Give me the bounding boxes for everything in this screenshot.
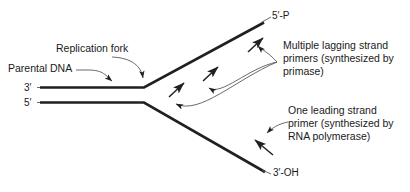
parental-dna-leader — [76, 70, 112, 81]
label-five-prime-phosphate: 5′-P — [272, 9, 289, 22]
left-callout-leaders — [76, 57, 143, 81]
lagging-primer-arrow-1 — [169, 83, 184, 97]
replication-fork-leader — [112, 57, 143, 78]
figure-canvas — [0, 0, 410, 192]
annotation-lagging-line-1: Multiple lagging strand — [283, 39, 394, 52]
lagging-leader-curves — [176, 46, 277, 106]
annotation-leading-line-1: One leading strand — [288, 104, 394, 117]
annotation-leading-line-2: primer (synthesized by — [288, 117, 394, 130]
strand-end-ticks — [37, 88, 40, 103]
lagging-leader-curve-1 — [176, 62, 277, 106]
lagging-primer-arrow-2 — [203, 67, 218, 81]
leading-strand-primer-group — [255, 122, 288, 155]
annotation-lagging-strand-primers: Multiple lagging strand primers (synthes… — [283, 39, 394, 78]
five-prime-p-tick — [262, 17, 271, 22]
annotation-lagging-line-2: primers (synthesized by — [283, 52, 394, 65]
annotation-leading-strand-primer: One leading strand primer (synthesized b… — [288, 104, 394, 143]
annotation-lagging-line-3: primase) — [283, 65, 394, 78]
leading-leader-curve — [267, 122, 288, 133]
label-three-prime: 3′ — [24, 81, 31, 94]
label-five-prime: 5′ — [24, 96, 31, 109]
leading-primer-arrow — [255, 140, 273, 155]
label-parental-dna: Parental DNA — [8, 62, 72, 75]
label-three-prime-hydroxyl: 3′-OH — [273, 166, 299, 179]
replication-fork-figure: Replication fork Parental DNA 3′ 5′ 5′-P… — [0, 0, 410, 192]
lagging-primer-arrow-3 — [248, 38, 263, 52]
parental-bottom-strand — [40, 103, 265, 173]
annotation-leading-line-3: RNA polymerase) — [288, 130, 394, 143]
label-replication-fork: Replication fork — [56, 42, 128, 55]
lagging-leader-curve-2 — [209, 62, 277, 89]
lagging-leader-curve-3 — [258, 46, 277, 62]
parental-top-strand — [40, 23, 264, 88]
